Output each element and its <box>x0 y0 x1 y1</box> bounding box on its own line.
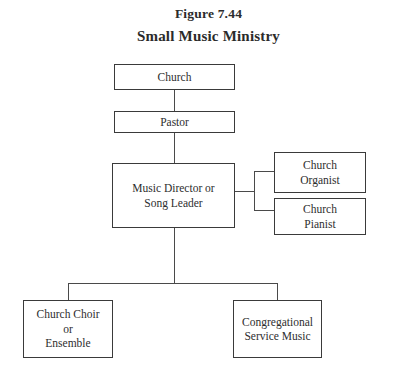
node-church-organist-label: Church Organist <box>296 158 343 187</box>
node-church-organist[interactable]: Church Organist <box>274 152 366 193</box>
node-church[interactable]: Church <box>114 64 235 90</box>
node-church-pianist[interactable]: Church Pianist <box>274 198 366 235</box>
node-pastor-label: Pastor <box>156 115 193 129</box>
figure-number: Figure 7.44 <box>0 6 417 22</box>
connector-bus-to-congregational <box>277 283 278 301</box>
node-church-pianist-label: Church Pianist <box>299 202 341 231</box>
node-congregational-service-music[interactable]: Congregational Service Music <box>233 300 322 358</box>
connector-bottom-bus <box>68 283 278 284</box>
connector-pastor-to-music-director <box>174 133 175 163</box>
organizational-chart: Figure 7.44 Small Music Ministry Church … <box>0 0 417 383</box>
page-title: Small Music Ministry <box>0 28 417 45</box>
connector-bracket-to-pianist <box>254 210 275 211</box>
connector-church-to-pastor <box>174 90 175 111</box>
connector-bus-to-choir <box>68 283 69 301</box>
connector-music-director-to-bus <box>174 228 175 284</box>
connector-music-director-to-bracket <box>235 191 255 192</box>
node-music-director[interactable]: Music Director or Song Leader <box>112 163 235 228</box>
connector-bracket-to-organist <box>254 171 275 172</box>
node-church-choir[interactable]: Church Choir or Ensemble <box>23 300 113 358</box>
node-church-choir-label: Church Choir or Ensemble <box>33 307 104 350</box>
node-congregational-service-music-label: Congregational Service Music <box>238 315 317 344</box>
node-pastor[interactable]: Pastor <box>114 111 235 133</box>
node-church-label: Church <box>154 70 196 84</box>
node-music-director-label: Music Director or Song Leader <box>128 181 218 210</box>
